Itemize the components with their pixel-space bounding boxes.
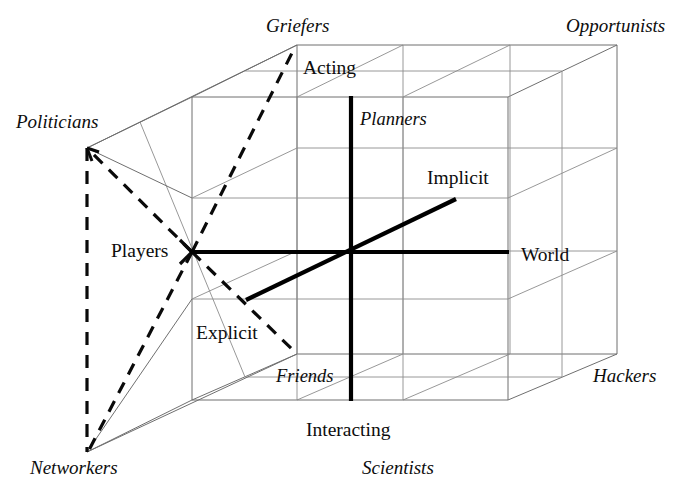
inner-label-planners: Planners	[360, 110, 427, 129]
right-face-grid	[508, 71, 617, 377]
axis-label-acting: Acting	[303, 58, 356, 78]
corner-label-opportunists: Opportunists	[566, 16, 665, 35]
top-face-grid	[245, 45, 562, 97]
back-face-grid	[297, 45, 617, 354]
corner-label-hackers: Hackers	[593, 366, 656, 385]
corner-label-networkers: Networkers	[30, 458, 118, 477]
corner-label-griefers: Griefers	[266, 16, 329, 35]
corner-label-politicians: Politicians	[16, 112, 98, 131]
axis-label-players: Players	[111, 241, 168, 261]
cube-back-face	[297, 45, 617, 354]
axis-label-world: World	[521, 245, 569, 265]
diagram-canvas: .thin { stroke:#8c8c8c; stroke-width:0.9…	[0, 0, 700, 503]
axis-label-implicit: Implicit	[427, 168, 489, 188]
axis-label-explicit: Explicit	[196, 323, 258, 343]
corner-label-scientists: Scientists	[362, 458, 434, 477]
axis-label-interacting: Interacting	[306, 420, 390, 440]
inner-label-friends: Friends	[276, 367, 334, 386]
